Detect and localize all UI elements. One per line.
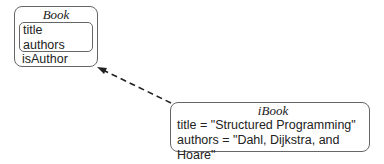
ibook-instance-box[interactable]: iBook title = "Structured Programming" a…: [170, 102, 370, 152]
arrowhead: [97, 67, 107, 74]
dashed-line: [103, 70, 171, 103]
slot-title: title = "Structured Programming": [177, 118, 369, 133]
book-class-box[interactable]: Book title authors isAuthor: [14, 6, 98, 67]
instance-name: iBook: [177, 104, 369, 118]
class-name: Book: [15, 8, 97, 22]
attribute-authors: authors: [23, 38, 92, 53]
attribute-title: title: [23, 23, 92, 38]
operation-isauthor: isAuthor: [22, 52, 68, 67]
slot-authors: authors = "Dahl, Dijkstra, and Hoare": [177, 133, 369, 163]
attributes-compartment: title authors: [19, 22, 93, 52]
